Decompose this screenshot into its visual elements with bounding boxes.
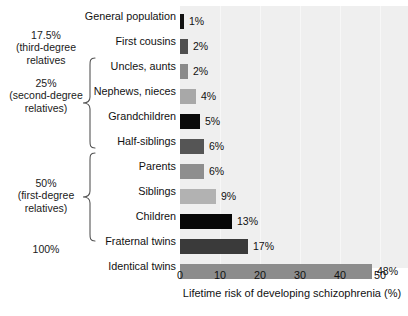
xtick-30: 30 <box>294 268 306 282</box>
x-axis: 0 10 20 30 40 50 <box>180 268 408 284</box>
xtick-40: 40 <box>334 268 346 282</box>
bar-value-first-cousins: 2% <box>193 39 208 54</box>
category-label-uncles-aunts: Uncles, aunts <box>111 60 176 72</box>
bar-value-uncles-aunts: 2% <box>193 64 208 79</box>
bar-half-siblings <box>180 139 204 154</box>
bar-value-nephews-nieces: 4% <box>201 89 216 104</box>
bar-chart: 17.5% (third-degree relatives 25% (secon… <box>0 0 408 316</box>
bar-children <box>180 214 232 229</box>
bar-general-population <box>180 14 184 29</box>
gridline-40 <box>340 6 341 268</box>
gridline-20 <box>260 6 261 268</box>
xtick-0: 0 <box>177 268 183 282</box>
xtick-50: 50 <box>374 268 386 282</box>
bar-first-cousins <box>180 39 188 54</box>
gridline-50 <box>380 6 381 268</box>
bar-value-grandchildren: 5% <box>205 114 220 129</box>
category-label-children: Children <box>136 210 176 222</box>
gridline-30 <box>300 6 301 268</box>
group-label-second-degree: 25% (second-degree relatives) <box>0 77 92 114</box>
group-label-first-degree: 50% (first-degree relatives) <box>0 177 92 214</box>
category-label-fraternal-twins: Fraternal twins <box>105 235 176 247</box>
category-label-parents: Parents <box>139 160 176 172</box>
group-label-third-degree: 17.5% (third-degree relatives <box>0 29 92 66</box>
category-label-grandchildren: Grandchildren <box>108 110 176 122</box>
bar-value-parents: 6% <box>209 164 224 179</box>
bar-value-siblings: 9% <box>221 189 236 204</box>
plot-area: 1% 2% 2% 4% 5% 6% 6% 9% 13% 17% 48% <box>180 6 408 268</box>
bar-value-fraternal-twins: 17% <box>253 239 274 254</box>
category-label-nephews-nieces: Nephews, nieces <box>94 85 176 97</box>
bar-nephews-nieces <box>180 89 196 104</box>
category-label-identical-twins: Identical twins <box>108 260 176 272</box>
bar-grandchildren <box>180 114 200 129</box>
bar-value-general-population: 1% <box>189 14 204 29</box>
category-label-first-cousins: First cousins <box>115 35 176 47</box>
bar-parents <box>180 164 204 179</box>
category-label-siblings: Siblings <box>138 185 176 197</box>
x-axis-label: Lifetime risk of developing schizophreni… <box>176 287 408 299</box>
xtick-20: 20 <box>254 268 266 282</box>
bar-value-children: 13% <box>237 214 258 229</box>
xtick-10: 10 <box>214 268 226 282</box>
bar-uncles-aunts <box>180 64 188 79</box>
category-label-general-population: General population <box>85 10 176 22</box>
bar-fraternal-twins <box>180 239 248 254</box>
category-label-column: General population First cousins Uncles,… <box>98 0 176 316</box>
category-label-half-siblings: Half-siblings <box>117 135 176 147</box>
bar-siblings <box>180 189 216 204</box>
bar-value-half-siblings: 6% <box>209 139 224 154</box>
group-label-identical-twins: 100% <box>0 243 92 255</box>
